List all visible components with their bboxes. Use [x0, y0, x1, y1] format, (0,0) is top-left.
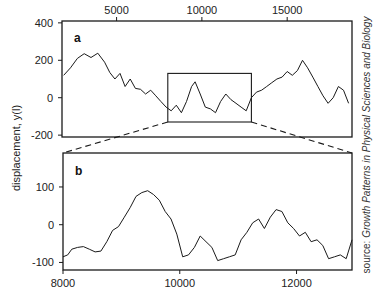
x-tick-label: 8000 — [51, 277, 75, 289]
panel-a-x-ticks: 50001000015000 — [104, 4, 302, 21]
y-tick-label: 100 — [36, 181, 54, 193]
panel-a-letter: a — [74, 31, 81, 45]
y-tick-label: 0 — [48, 219, 54, 231]
panel-b-frame — [63, 153, 352, 270]
y-tick-label: 0 — [47, 92, 53, 104]
y-axis-title: displacement, y(l) — [10, 105, 22, 191]
panel-a-inset-box — [168, 73, 252, 122]
source-prefix: source: — [361, 238, 372, 274]
x-tick-label: 15000 — [272, 4, 303, 16]
y-tick-label: -100 — [32, 256, 54, 268]
panel-b-x-ticks: 80001000012000 — [51, 270, 312, 289]
x-tick-label: 10000 — [164, 277, 195, 289]
x-tick-label: 12000 — [281, 277, 312, 289]
panel-a-series-line — [64, 53, 349, 112]
panel-b-letter: b — [75, 164, 82, 178]
panel-b-series-line — [63, 191, 352, 261]
chart-figure: 50001000015000 4002000-200 a 80001000012… — [0, 0, 379, 297]
y-tick-label: 400 — [35, 17, 53, 29]
panel-a-y-ticks: 4002000-200 — [31, 17, 62, 141]
x-tick-label: 10000 — [187, 4, 218, 16]
y-tick-label: 200 — [35, 54, 53, 66]
panel-b-y-ticks: 1000-100 — [32, 181, 63, 268]
y-tick-label: -200 — [31, 129, 53, 141]
source-credit: source: Growth Patterns in Physical Scie… — [361, 16, 372, 274]
panel-a-frame — [62, 21, 352, 137]
x-tick-label: 5000 — [104, 4, 128, 16]
source-title: Growth Patterns in Physical Sciences and… — [361, 16, 372, 238]
